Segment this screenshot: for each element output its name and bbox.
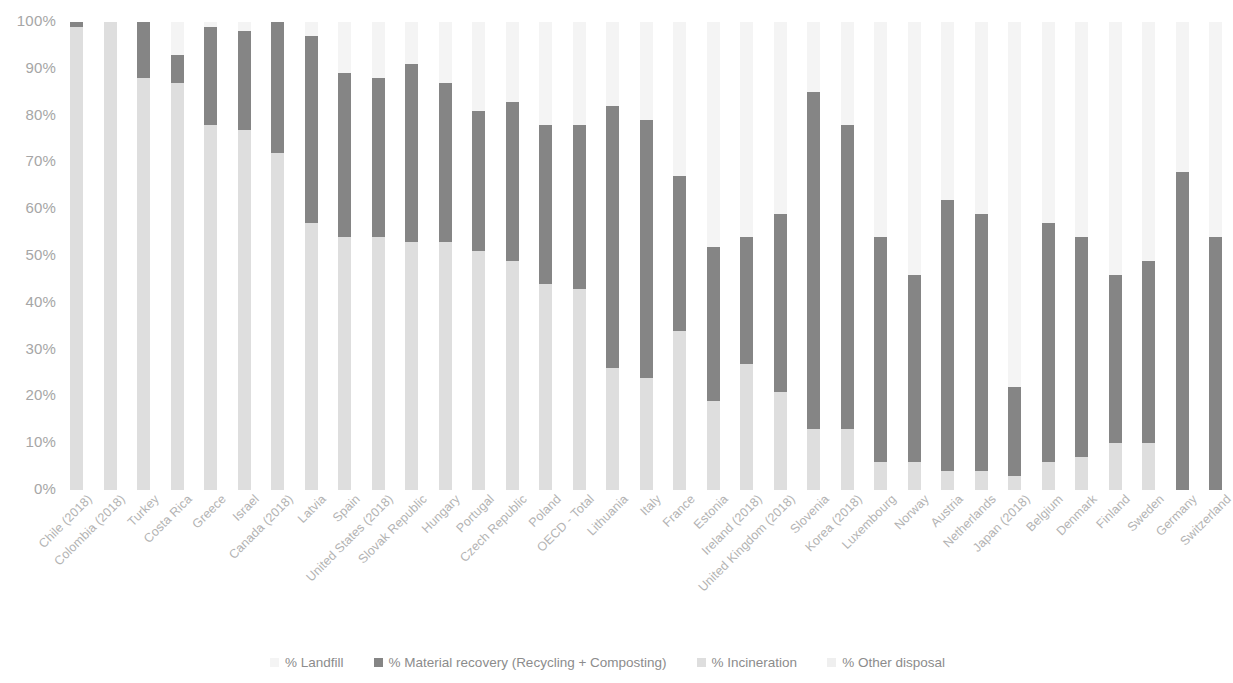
bar-segment-landfill (774, 22, 787, 214)
bar-segment-incineration (975, 471, 988, 490)
bar-segment-incineration (1142, 443, 1155, 490)
bar-segment-landfill (171, 22, 184, 55)
bar-segment-material-recovery (372, 78, 385, 237)
bar-column (238, 22, 251, 490)
bar-segment-material-recovery (1008, 387, 1021, 476)
bar-segment-landfill (305, 22, 318, 36)
bar-segment-incineration (338, 237, 351, 490)
x-axis-category-label: Norway (892, 492, 932, 532)
bar-segment-landfill (1008, 22, 1021, 387)
bar-segment-material-recovery (874, 237, 887, 462)
bar-segment-incineration (1042, 462, 1055, 490)
bar-segment-landfill (673, 22, 686, 176)
bar-segment-incineration (372, 237, 385, 490)
legend-item[interactable]: % Material recovery (Recycling + Compost… (374, 655, 667, 670)
bar-column (204, 22, 217, 490)
bar-segment-incineration (707, 401, 720, 490)
bar-column (539, 22, 552, 490)
bar-column (506, 22, 519, 490)
y-axis-tick-label: 90% (2, 59, 56, 76)
bar-segment-material-recovery (707, 247, 720, 401)
bar-segment-incineration (740, 364, 753, 490)
bar-segment-landfill (372, 22, 385, 78)
y-axis-tick-label: 50% (2, 246, 56, 263)
bar-segment-landfill (941, 22, 954, 200)
bar-column (472, 22, 485, 490)
bar-segment-incineration (841, 429, 854, 490)
bar-segment-incineration (1075, 457, 1088, 490)
bar-segment-landfill (338, 22, 351, 73)
bar-column (104, 22, 117, 490)
legend-swatch-icon (827, 658, 836, 667)
bar-segment-material-recovery (807, 92, 820, 429)
bar-segment-incineration (573, 289, 586, 490)
bar-segment-incineration (640, 378, 653, 490)
bar-column (1209, 22, 1222, 490)
bar-segment-landfill (1109, 22, 1122, 275)
bar-segment-landfill (1075, 22, 1088, 237)
bar-segment-incineration (472, 251, 485, 490)
bar-column (338, 22, 351, 490)
bar-segment-landfill (975, 22, 988, 214)
bar-segment-material-recovery (606, 106, 619, 368)
bar-segment-material-recovery (1142, 261, 1155, 444)
bar-column (707, 22, 720, 490)
bar-column (774, 22, 787, 490)
bar-segment-material-recovery (740, 237, 753, 363)
bar-segment-landfill (1042, 22, 1055, 223)
bar-column (908, 22, 921, 490)
bar-segment-landfill (539, 22, 552, 125)
bar-column (573, 22, 586, 490)
bar-segment-incineration (807, 429, 820, 490)
bar-segment-material-recovery (238, 31, 251, 129)
bar-segment-incineration (104, 22, 117, 490)
legend-item[interactable]: % Landfill (270, 655, 344, 670)
bar-column (1142, 22, 1155, 490)
bar-column (1075, 22, 1088, 490)
legend-item[interactable]: % Incineration (697, 655, 798, 670)
bar-segment-material-recovery (439, 83, 452, 242)
legend-label: % Incineration (712, 655, 798, 670)
bar-segment-incineration (606, 368, 619, 490)
bar-column (1008, 22, 1021, 490)
bar-segment-material-recovery (841, 125, 854, 429)
bar-segment-material-recovery (506, 102, 519, 261)
bar-segment-material-recovery (573, 125, 586, 289)
bar-segment-landfill (707, 22, 720, 247)
legend-item[interactable]: % Other disposal (827, 655, 945, 670)
bar-segment-material-recovery (305, 36, 318, 223)
bar-segment-incineration (774, 392, 787, 490)
bar-segment-landfill (472, 22, 485, 111)
bar-segment-material-recovery (908, 275, 921, 462)
bar-column (137, 22, 150, 490)
y-axis-tick-label: 80% (2, 106, 56, 123)
bar-column (606, 22, 619, 490)
bar-segment-material-recovery (171, 55, 184, 83)
bar-segment-landfill (1176, 22, 1189, 172)
bar-column (405, 22, 418, 490)
bar-column (70, 22, 83, 490)
bar-segment-material-recovery (338, 73, 351, 237)
bar-segment-material-recovery (1176, 172, 1189, 490)
bar-segment-incineration (539, 284, 552, 490)
legend-swatch-icon (374, 658, 383, 667)
x-axis-category-label: Italy (637, 492, 663, 518)
legend-label: % Other disposal (842, 655, 945, 670)
bar-column (740, 22, 753, 490)
bar-segment-material-recovery (405, 64, 418, 242)
bar-segment-material-recovery (975, 214, 988, 471)
bar-segment-landfill (841, 22, 854, 125)
bar-column (807, 22, 820, 490)
bar-column (1042, 22, 1055, 490)
bar-segment-landfill (740, 22, 753, 237)
bar-segment-landfill (1209, 22, 1222, 237)
legend-label: % Landfill (285, 655, 344, 670)
chart-legend: % Landfill% Material recovery (Recycling… (0, 655, 1215, 670)
bar-segment-landfill (405, 22, 418, 64)
bar-column (874, 22, 887, 490)
bar-segment-incineration (941, 471, 954, 490)
x-axis-category-label: France (660, 492, 698, 530)
x-axis-category-label: Greece (189, 492, 228, 531)
bar-segment-landfill (908, 22, 921, 275)
